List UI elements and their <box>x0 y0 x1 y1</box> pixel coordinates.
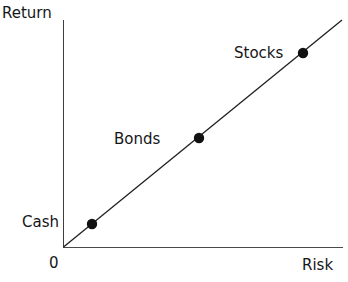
y-axis-label: Return <box>2 5 52 21</box>
risk-return-chart: Return Risk 0 Cash Bonds Stocks <box>0 0 348 282</box>
data-point-bonds <box>194 133 204 143</box>
origin-tick-label: 0 <box>49 255 59 271</box>
data-label-cash: Cash <box>22 214 59 230</box>
data-point-cash <box>87 219 97 229</box>
data-point-stocks <box>298 48 308 58</box>
data-label-bonds: Bonds <box>114 131 160 147</box>
data-label-stocks: Stocks <box>234 45 283 61</box>
x-axis-label: Risk <box>302 257 333 273</box>
chart-plot-area <box>0 0 348 282</box>
